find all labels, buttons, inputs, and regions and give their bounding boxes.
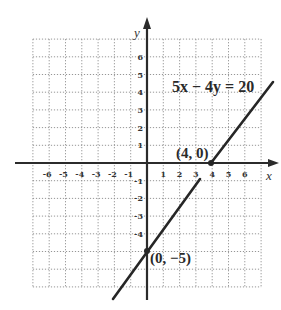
point-x-intercept — [208, 160, 214, 166]
x-tick-label: 4 — [209, 169, 215, 179]
point-label-y-intercept: (0, −5) — [150, 250, 191, 267]
x-tick-label: -1 — [124, 169, 133, 179]
x-tick-label: 6 — [242, 169, 248, 179]
x-tick-label: -2 — [108, 169, 117, 179]
x-tick-label: -6 — [43, 169, 52, 179]
axes: x y — [15, 17, 279, 300]
x-axis-arrow-icon — [268, 159, 279, 167]
y-tick-label: 6 — [137, 52, 143, 62]
x-tick-label: -5 — [59, 169, 68, 179]
x-tick-label: -3 — [92, 169, 101, 179]
y-tick-label: -1 — [134, 176, 143, 186]
y-tick-label: 2 — [137, 123, 143, 133]
y-axis-arrow-icon — [143, 17, 151, 29]
y-tick-label: 1 — [137, 140, 143, 150]
y-tick-label: -2 — [134, 193, 143, 203]
y-tick-label: 3 — [137, 105, 143, 115]
equation-label: 5x − 4y = 20 — [172, 78, 254, 96]
y-tick-label: -3 — [134, 211, 143, 221]
y-tick-label: 4 — [137, 87, 143, 97]
y-tick-label: -4 — [134, 229, 143, 239]
x-tick-label: -4 — [75, 169, 84, 179]
x-tick-label: 2 — [177, 169, 183, 179]
point-label-x-intercept: (4, 0) — [176, 145, 209, 162]
x-tick-label: 5 — [226, 169, 232, 179]
x-tick-label: 3 — [193, 169, 199, 179]
x-tick-label: 1 — [161, 169, 167, 179]
line-segment-lower — [113, 179, 200, 299]
x-axis-label: x — [265, 168, 272, 183]
y-axis-label: y — [132, 25, 140, 40]
y-tick-label: 5 — [137, 70, 143, 80]
coordinate-plane: x y -6-5-4-3-2-1123456654321-1-2-3-4 5x … — [0, 0, 281, 310]
